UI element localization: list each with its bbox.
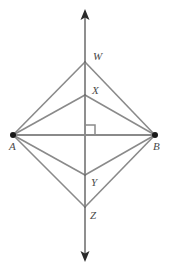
right-angle-marker-icon (85, 125, 95, 135)
label-point-w: W (93, 51, 102, 62)
segment-yb (85, 135, 155, 175)
label-point-x: X (92, 85, 99, 96)
point-w-node (84, 61, 86, 63)
segment-wb (85, 62, 155, 135)
segment-aw (13, 62, 85, 135)
geometry-diagram: W X Y Z A B (0, 0, 170, 270)
segment-az (13, 135, 85, 207)
label-point-z: Z (90, 210, 96, 221)
label-point-b: B (153, 141, 160, 152)
point-x-node (84, 94, 86, 96)
label-point-y: Y (91, 177, 97, 188)
diagram-canvas (0, 0, 170, 270)
point-z-node (84, 206, 86, 208)
segment-ax (13, 95, 85, 135)
point-b-dot (152, 132, 158, 138)
point-a-dot (10, 132, 16, 138)
segment-ay (13, 135, 85, 175)
segment-zb (85, 135, 155, 207)
label-point-a: A (9, 141, 16, 152)
point-y-node (84, 174, 86, 176)
